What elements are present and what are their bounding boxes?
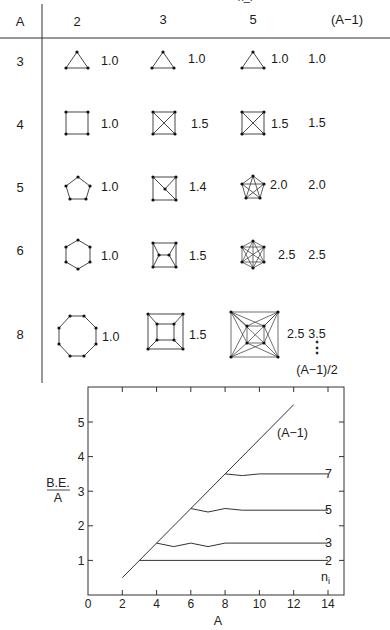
- svg-text:A: A: [54, 491, 63, 505]
- series-n5: [191, 509, 328, 513]
- x-axis-ticks: [122, 387, 328, 595]
- label-n5: 5: [325, 503, 332, 517]
- svg-text:2: 2: [78, 519, 85, 533]
- y-axis-ticks: [88, 422, 344, 560]
- svg-text:6: 6: [187, 597, 194, 611]
- graph-icon-k4: [242, 112, 264, 134]
- label-a-minus-1: (A−1): [277, 426, 308, 440]
- figure-graphics: 02 46 810 1214 12 34 5 A B.E. A (A−1) 7 …: [0, 0, 390, 630]
- graph-icon-complete-k5: [242, 176, 264, 198]
- svg-text:8: 8: [222, 597, 229, 611]
- series-n3: [157, 543, 328, 547]
- series-n7: [225, 474, 328, 476]
- x-axis-label: A: [214, 614, 223, 628]
- y-axis-tick-labels: 12 34 5: [78, 416, 85, 568]
- graph-icon-pentagon-ring: [66, 177, 90, 199]
- graph-icon-square-two-inner: [153, 243, 176, 267]
- y-axis-label: B.E. A: [46, 476, 70, 505]
- graph-icon-octagon-ring: [59, 316, 96, 356]
- svg-text:3: 3: [78, 485, 85, 499]
- graph-icon-square-ring: [66, 112, 88, 134]
- label-n3: 3: [325, 536, 332, 550]
- graph-icon-k4: [153, 112, 175, 134]
- graph-icon-triangle: [242, 52, 264, 68]
- graph-icon-cube: [148, 314, 183, 349]
- legend-title-ni: ni: [321, 570, 330, 586]
- graph-icon-hexagon-ring: [66, 240, 90, 269]
- graph-icon-nested-square-dense: [231, 312, 278, 357]
- svg-text:2: 2: [119, 597, 126, 611]
- svg-text:12: 12: [287, 597, 301, 611]
- svg-text:5: 5: [78, 416, 85, 430]
- graph-icon-triangle: [152, 52, 174, 68]
- svg-text:1: 1: [78, 554, 85, 568]
- svg-text:10: 10: [253, 597, 267, 611]
- series-a-minus-1: [122, 405, 293, 578]
- graph-icon-triangle: [66, 52, 88, 68]
- svg-text:4: 4: [78, 450, 85, 464]
- x-axis-tick-labels: 02 46 810 1214: [85, 597, 335, 611]
- svg-text:4: 4: [153, 597, 160, 611]
- svg-text:B.E.: B.E.: [46, 476, 70, 490]
- svg-text:14: 14: [321, 597, 335, 611]
- graph-icon-complete-k6: [242, 241, 264, 268]
- svg-text:0: 0: [85, 597, 92, 611]
- label-n2: 2: [325, 554, 332, 568]
- label-n7: 7: [325, 467, 332, 481]
- chart-frame: [88, 387, 344, 595]
